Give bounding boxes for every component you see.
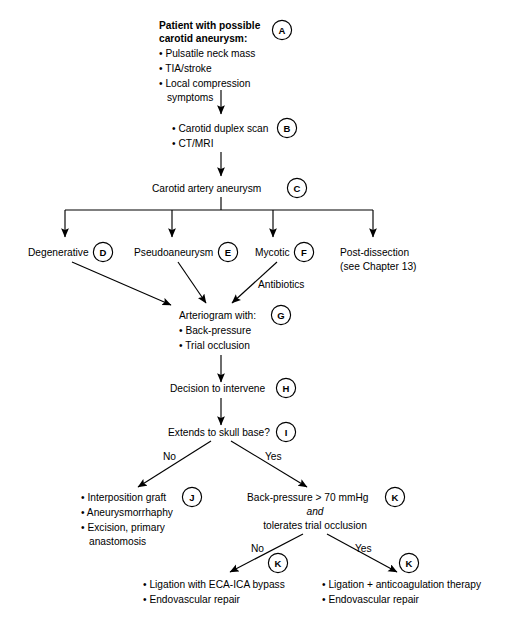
node-k-left-ligation-bypass: • Ligation with ECA-ICA bypass • Endovas… [143,553,288,605]
node-k-right-bullet1: • Ligation + anticoagulation therapy [322,579,482,590]
node-g-arteriogram: Arteriogram with: • Back-pressure • Tria… [179,305,291,351]
flowchart-diagram: Patient with possible carotid aneurysm: … [0,0,510,628]
tag-d: D [93,242,112,261]
node-i-extends-to-skull-base: Extends to skull base? I [168,422,296,441]
tag-d-letter: D [100,247,107,258]
tag-g-letter: G [277,310,284,321]
node-a-bullet3-cont: symptoms [167,92,213,103]
node-c-carotid-artery-aneurysm: Carotid artery aneurysm C [152,178,307,197]
branch-bus-four-way [65,197,373,237]
node-j-open-repair: • Interposition graft • Aneurysmorrhaphy… [81,487,202,547]
edge-label-backpressure-yes: Yes [355,543,372,554]
edge-label-antibiotics: Antibiotics [258,279,304,290]
tag-h-letter: H [283,383,290,394]
node-f-mycotic: Mycotic F [255,242,314,261]
node-c-label: Carotid artery aneurysm [152,183,261,194]
node-d-degenerative: Degenerative D [28,242,113,261]
node-i-label: Extends to skull base? [168,427,270,438]
tag-f: F [294,242,313,261]
node-a-patient-presentation: Patient with possible carotid aneurysm: … [159,20,292,103]
tag-i-letter: I [285,427,288,438]
tag-k-top: K [385,487,404,506]
node-h-label: Decision to intervene [170,383,265,394]
tag-k-right: K [399,553,418,572]
edge-e-to-g [178,262,206,303]
edge-label-skull-base-no: No [163,451,176,462]
edge-label-backpressure-no: No [251,543,264,554]
node-e-label: Pseudoaneurysm [134,247,213,258]
tag-j: J [182,487,201,506]
tag-a-letter: A [279,25,286,36]
flowchart-canvas: Patient with possible carotid aneurysm: … [0,0,510,628]
tag-e: E [218,242,237,261]
node-a-line1: Patient with possible [159,20,261,31]
tag-f-letter: F [301,247,307,258]
node-d-label: Degenerative [28,247,89,258]
node-j-bullet2: • Aneurysmorrhaphy [81,507,174,518]
node-j-bullet1: • Interposition graft [81,492,166,503]
tag-g: G [271,305,290,324]
tag-c: C [287,178,306,197]
node-post-dissection-line1: Post-dissection [340,247,409,258]
node-h-decision-to-intervene: Decision to intervene H [170,378,296,397]
node-post-dissection-line2: (see Chapter 13) [340,261,416,272]
edge-d-to-g [72,262,171,305]
node-k-left-bullet2: • Endovascular repair [143,594,241,605]
node-k-top-line3: tolerates trial occlusion [263,520,367,531]
node-j-bullet3: • Excision, primary [81,522,166,533]
node-g-bullet2: • Trial occlusion [179,340,250,351]
tag-i: I [276,422,295,441]
tag-b-letter: B [284,123,291,134]
node-f-label: Mycotic [255,247,290,258]
node-k-top-line1: Back-pressure > 70 mmHg [247,492,369,503]
node-k-right-ligation-anticoagulation: • Ligation + anticoagulation therapy • E… [322,553,482,605]
node-a-bullet3: • Local compression [159,78,250,89]
node-j-bullet3-cont: anastomosis [89,536,146,547]
node-g-label: Arteriogram with: [179,310,256,321]
node-b-bullet1: • Carotid duplex scan [172,123,268,134]
node-k-top-line2: and [307,506,324,517]
node-a-bullet1: • Pulsatile neck mass [159,48,255,59]
tag-c-letter: C [294,183,301,194]
node-k-backpressure-criteria: Back-pressure > 70 mmHg and tolerates tr… [247,487,405,531]
node-g-bullet1: • Back-pressure [179,325,251,336]
tag-k-left: K [268,553,287,572]
tag-b: B [277,118,296,137]
edge-i-yes-to-k [231,441,307,487]
tag-k-right-letter: K [406,558,413,569]
node-post-dissection: Post-dissection (see Chapter 13) [340,247,416,272]
tag-h: H [276,378,295,397]
node-a-line2: carotid aneurysm: [159,33,247,44]
edge-i-no-to-j [138,441,211,487]
node-b-imaging: • Carotid duplex scan • CT/MRI B [172,118,297,149]
node-b-bullet2: • CT/MRI [172,138,213,149]
node-a-bullet2: • TIA/stroke [159,63,212,74]
tag-e-letter: E [225,247,231,258]
tag-j-letter: J [189,492,194,503]
node-e-pseudoaneurysm: Pseudoaneurysm E [134,242,238,261]
node-k-right-bullet2: • Endovascular repair [322,594,420,605]
edge-label-skull-base-yes: Yes [265,451,282,462]
tag-k-top-letter: K [392,492,399,503]
tag-k-left-letter: K [275,558,282,569]
tag-a: A [272,20,291,39]
edge-k-no-to-kleft [230,534,303,572]
node-k-left-bullet1: • Ligation with ECA-ICA bypass [143,579,285,590]
